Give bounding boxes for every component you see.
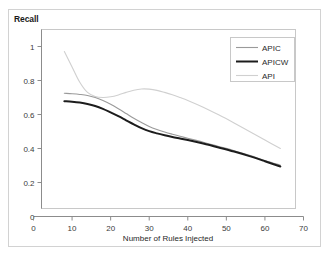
x-axis-ticks: 010203040506070 [31,217,308,233]
y-tick-label: 0 [30,213,35,222]
chart-legend: APICAPICWAPI [231,38,295,82]
x-tick-label: 30 [145,224,154,233]
y-tick-label: 0.2 [23,179,35,188]
x-tick-label: 20 [106,224,115,233]
legend-label-apic: APIC [262,44,281,53]
y-axis-ticks: 00.20.40.60.81 [23,43,41,222]
x-axis-title: Number of Rules Injected [123,234,213,243]
y-tick-label: 0.6 [23,111,35,120]
legend-label-apicw: APICW [262,58,289,67]
plot-canvas: 00.20.40.60.81 010203040506070 APICAPICW… [8,9,321,247]
legend-label-api: API [262,72,275,81]
x-tick-label: 10 [68,224,77,233]
x-tick-label: 0 [31,224,36,233]
x-tick-label: 60 [260,224,269,233]
x-tick-label: 70 [299,224,308,233]
x-tick-label: 50 [222,224,231,233]
y-tick-label: 0.4 [23,145,35,154]
x-tick-label: 40 [183,224,192,233]
recall-line-chart: Recall 00.20.40.60.81 010203040506070 AP… [0,0,331,257]
y-tick-label: 1 [30,43,35,52]
y-tick-label: 0.8 [23,77,35,86]
